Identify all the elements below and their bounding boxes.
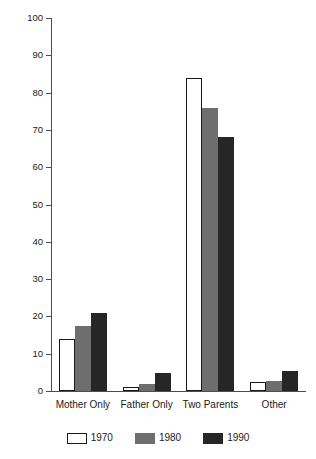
y-axis-tick-label: 10 xyxy=(32,348,43,359)
y-axis-tick-label: 90 xyxy=(32,49,43,60)
plot-area: 0102030405060708090100 Mother OnlyFather… xyxy=(51,18,306,392)
y-axis-tick-label: 100 xyxy=(27,12,43,23)
legend-swatch-1990 xyxy=(203,433,223,444)
y-axis-tick: 70 xyxy=(46,130,51,131)
bar-1970[interactable] xyxy=(59,339,75,391)
y-axis-tick-label: 0 xyxy=(38,385,43,396)
bar-group xyxy=(186,18,234,391)
y-axis-tick: 90 xyxy=(46,55,51,56)
y-axis-tick: 0 xyxy=(46,391,51,392)
bar-1970[interactable] xyxy=(186,78,202,391)
category-label: Father Only xyxy=(115,399,179,411)
y-axis-tick: 50 xyxy=(46,205,51,206)
legend-item-1980[interactable]: 1980 xyxy=(135,432,181,444)
chart-legend: 197019801990 xyxy=(0,428,316,448)
bar-1990[interactable] xyxy=(91,313,107,391)
bar-1980[interactable] xyxy=(75,326,91,391)
bar-1970[interactable] xyxy=(250,382,266,391)
bar-group xyxy=(123,18,171,391)
y-axis-tick: 40 xyxy=(46,242,51,243)
category-label: Other xyxy=(242,399,306,411)
legend-swatch-1970 xyxy=(67,433,87,444)
category-label: Two Parents xyxy=(179,399,243,411)
legend-label-1970: 1970 xyxy=(91,432,113,444)
legend-label-1980: 1980 xyxy=(159,432,181,444)
bar-1990[interactable] xyxy=(218,137,234,391)
y-axis-tick: 80 xyxy=(46,93,51,94)
bar-1980[interactable] xyxy=(139,384,155,391)
bar-1990[interactable] xyxy=(282,371,298,391)
bar-group xyxy=(59,18,107,391)
category-label: Mother Only xyxy=(51,399,115,411)
bar-group xyxy=(250,18,298,391)
y-axis-spine xyxy=(51,18,52,392)
y-axis-tick: 100 xyxy=(46,18,51,19)
legend-item-1970[interactable]: 1970 xyxy=(67,432,113,444)
y-axis-tick-label: 60 xyxy=(32,161,43,172)
y-axis-tick-label: 40 xyxy=(32,236,43,247)
bar-chart-figure: Percent of Children 01020304050607080901… xyxy=(0,0,316,459)
legend-label-1990: 1990 xyxy=(227,432,249,444)
y-axis-tick: 10 xyxy=(46,354,51,355)
y-axis-tick-label: 30 xyxy=(32,273,43,284)
y-axis-tick-label: 70 xyxy=(32,124,43,135)
y-axis-tick: 20 xyxy=(46,316,51,317)
bar-1970[interactable] xyxy=(123,387,139,391)
bar-1980[interactable] xyxy=(202,108,218,391)
y-axis-tick-label: 50 xyxy=(32,199,43,210)
y-axis-tick-label: 20 xyxy=(32,310,43,321)
y-axis-tick-label: 80 xyxy=(32,87,43,98)
legend-swatch-1980 xyxy=(135,433,155,444)
legend-item-1990[interactable]: 1990 xyxy=(203,432,249,444)
bar-1990[interactable] xyxy=(155,373,171,391)
bar-1980[interactable] xyxy=(266,381,282,391)
y-axis-tick: 30 xyxy=(46,279,51,280)
x-axis-spine xyxy=(51,391,306,392)
y-axis-tick: 60 xyxy=(46,167,51,168)
